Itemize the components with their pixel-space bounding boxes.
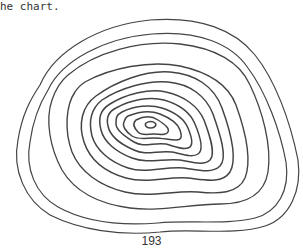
page-number: 193 [0, 234, 303, 248]
contour-line-10 [123, 112, 181, 140]
contour-line-11 [134, 117, 169, 135]
contour-line-6 [90, 82, 223, 171]
contour-line-4 [67, 64, 248, 194]
contour-line-5 [81, 72, 233, 180]
contour-line-12 [145, 122, 155, 129]
contour-line-1 [17, 19, 299, 233]
contour-map-figure [0, 0, 303, 249]
